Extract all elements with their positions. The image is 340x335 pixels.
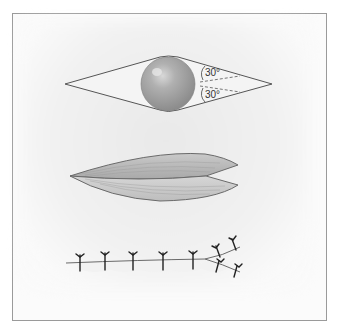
panel-undermined-edges (70, 153, 238, 201)
suture-6 (212, 244, 220, 257)
lower-flap (70, 176, 238, 201)
panel-ellipse-excision: 30° 30° (65, 56, 272, 112)
angle-label-bottom: 30° (205, 89, 220, 100)
excision-diagram: 30° 30° (0, 0, 340, 335)
suture-9 (234, 264, 242, 277)
suture-7 (229, 236, 236, 250)
lesion-sphere (141, 57, 195, 111)
panel-sutured-closure (66, 236, 242, 277)
lesion-highlight (152, 68, 162, 76)
angle-label-top: 30° (205, 67, 220, 78)
